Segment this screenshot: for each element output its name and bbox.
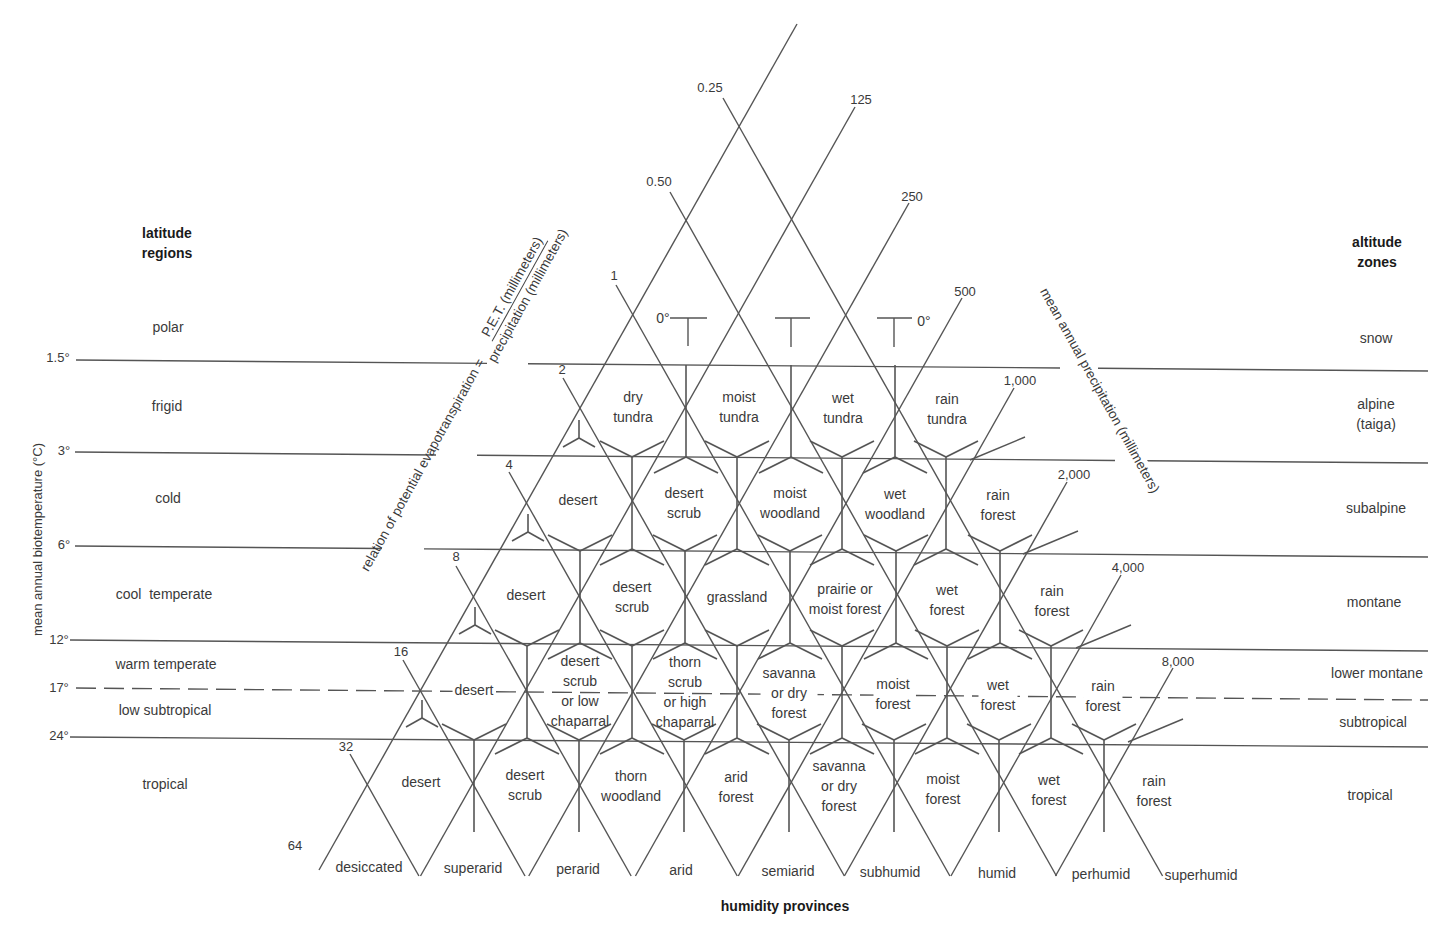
precip-tick-1000: 1,000 (1004, 373, 1037, 388)
altitude-alpine: alpine (taiga) (1356, 394, 1396, 434)
precip-tick-4000: 4,000 (1112, 560, 1145, 575)
life-zone-prairie: prairie or moist forest (809, 579, 881, 619)
life-zone-tropical-savanna: savanna or dry forest (813, 756, 866, 816)
latitude-tropical: tropical (142, 774, 187, 794)
altitude-subtropical: subtropical (1339, 712, 1407, 732)
pet-tick-2: 2 (558, 362, 565, 377)
life-zone-wet-tundra: wet tundra (823, 388, 863, 428)
precip-tick-500: 500 (954, 284, 976, 299)
pet-tick-0-50: 0.50 (646, 174, 671, 189)
life-zone-tropical-moist-forest: moist forest (925, 769, 960, 809)
latitude-cool-temperate: cool temperate (116, 584, 213, 604)
life-zone-thorn-woodland: thorn woodland (601, 766, 661, 806)
life-zone-grassland: grassland (707, 587, 768, 607)
temp-tick-24: 24° (49, 728, 69, 743)
life-zone-warm-savanna: savanna or dry forest (761, 663, 818, 723)
humidity-superarid: superarid (444, 858, 502, 878)
pet-tick-64: 64 (288, 838, 302, 853)
humidity-arid: arid (669, 860, 692, 880)
precip-tick-8000: 8,000 (1162, 654, 1195, 669)
temp-tick-6: 6° (58, 537, 70, 552)
altitude-snow: snow (1360, 328, 1393, 348)
altitude-montane: montane (1347, 592, 1401, 612)
temp-tick-17: 17° (49, 680, 69, 695)
frost-line-label-left: 0° (656, 310, 669, 326)
altitude-tropical: tropical (1347, 785, 1392, 805)
pet-tick-8: 8 (452, 549, 459, 564)
life-zone-warm-wet-forest: wet forest (978, 675, 1017, 715)
humidity-humid: humid (978, 863, 1016, 883)
latitude-warm-temperate: warm temperate (115, 654, 216, 674)
latitude-polar: polar (152, 317, 183, 337)
latitude-frigid: frigid (152, 396, 182, 416)
life-zone-tropical-rain-forest: rain forest (1136, 771, 1171, 811)
life-zone-warm-moist-forest: moist forest (873, 674, 912, 714)
life-zone-wet-woodland: wet woodland (865, 484, 925, 524)
temp-tick-1-5: 1.5° (46, 350, 69, 365)
life-zone-tropical-wet-forest: wet forest (1031, 770, 1066, 810)
life-zone-moist-tundra: moist tundra (719, 387, 759, 427)
altitude-subalpine: subalpine (1346, 498, 1406, 518)
life-zone-thorn-scrub: thorn scrub or high chaparral (656, 652, 714, 732)
latitude-low-subtropical: low subtropical (119, 700, 212, 720)
humidity-subhumid: subhumid (860, 862, 921, 882)
life-zone-warm-desert-scrub: desert scrub or low chaparral (551, 651, 609, 731)
life-zone-tropical-desert-scrub: desert scrub (506, 765, 545, 805)
altitude-zones-header: altitude zones (1352, 232, 1402, 272)
life-zone-boreal-rain-forest: rain forest (980, 485, 1015, 525)
biotemperature-axis-label: mean annual biotemperature (°C) (30, 425, 45, 655)
temp-tick-12: 12° (49, 632, 69, 647)
pet-tick-0-25: 0.25 (697, 80, 722, 95)
life-zone-cool-desert: desert (507, 585, 546, 605)
life-zone-tropical-desert: desert (402, 772, 441, 792)
humidity-desiccated: desiccated (336, 857, 403, 877)
life-zone-dry-tundra: dry tundra (613, 387, 653, 427)
humidity-semiarid: semiarid (762, 861, 815, 881)
humidity-provinces-header: humidity provinces (721, 896, 849, 916)
life-zone-boreal-desert-scrub: desert scrub (665, 483, 704, 523)
life-zone-rain-tundra: rain tundra (927, 389, 967, 429)
frost-line-label-right: 0° (917, 313, 930, 329)
precip-tick-250: 250 (901, 189, 923, 204)
life-zone-warm-desert: desert (453, 680, 496, 700)
humidity-superhumid: superhumid (1164, 865, 1237, 885)
pet-tick-32: 32 (339, 739, 353, 754)
precip-tick-2000: 2,000 (1058, 467, 1091, 482)
life-zone-cool-rain-forest: rain forest (1034, 581, 1069, 621)
life-zone-warm-rain-forest: rain forest (1083, 676, 1122, 716)
life-zone-moist-woodland: moist woodland (760, 483, 820, 523)
humidity-perhumid: perhumid (1072, 864, 1130, 884)
altitude-lower-montane: lower montane (1331, 663, 1423, 683)
precip-tick-125: 125 (850, 92, 872, 107)
pet-tick-4: 4 (505, 457, 512, 472)
pet-tick-1: 1 (610, 268, 617, 283)
pet-tick-16: 16 (394, 644, 408, 659)
latitude-cold: cold (155, 488, 181, 508)
life-zone-boreal-desert: desert (559, 490, 598, 510)
life-zone-arid-forest: arid forest (718, 767, 753, 807)
life-zone-cool-wet-forest: wet forest (929, 580, 964, 620)
temp-tick-3: 3° (58, 443, 70, 458)
humidity-perarid: perarid (556, 859, 600, 879)
life-zone-cool-desert-scrub: desert scrub (613, 577, 652, 617)
latitude-regions-header: latitude regions (142, 223, 193, 263)
